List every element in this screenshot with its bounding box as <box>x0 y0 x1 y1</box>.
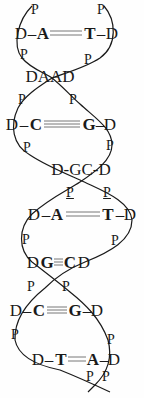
base-label: DAAD <box>25 68 74 85</box>
base-label: G <box>40 254 53 271</box>
base-label: C <box>64 254 76 271</box>
base-label: T <box>102 206 113 223</box>
deoxyribose-label: D <box>104 116 116 133</box>
phosphate-label: P <box>22 233 30 247</box>
base-label: A <box>37 25 49 42</box>
phosphate-label: P <box>107 333 115 347</box>
bond-dash: – <box>97 25 106 42</box>
bond-dash: – <box>23 302 32 319</box>
phosphate-label: P <box>97 3 105 17</box>
bond-dash: – <box>28 25 37 42</box>
bond-dash: – <box>42 206 51 223</box>
deoxyribose-label: D <box>6 116 18 133</box>
base-label: T <box>55 351 66 368</box>
phosphate-label: P <box>111 234 119 248</box>
base-label: D-GC-D <box>51 161 111 178</box>
strand-left <box>17 6 112 392</box>
base-label: G <box>68 302 81 319</box>
deoxyribose-label: D <box>32 351 44 368</box>
deoxyribose-label: D <box>108 351 120 368</box>
deoxyribose-label: D <box>91 302 103 319</box>
phosphate-label: P <box>106 139 114 153</box>
phosphate-label: P <box>84 53 92 67</box>
phosphate-label: P <box>69 93 77 107</box>
deoxyribose-label: D <box>78 254 90 271</box>
bond-dash: – <box>45 351 54 368</box>
base-label: G <box>82 116 95 133</box>
phosphate-label: P <box>11 328 19 342</box>
base-label: A <box>87 351 99 368</box>
phosphate-label: P <box>31 3 39 17</box>
phosphate-label: P <box>20 48 28 62</box>
deoxyribose-label: D <box>28 206 40 223</box>
deoxyribose-label: D <box>15 25 27 42</box>
phosphate-label: P <box>62 280 70 294</box>
phosphate-label: P <box>103 186 111 200</box>
deoxyribose-label: D <box>27 254 39 271</box>
deoxyribose-label: D <box>124 206 136 223</box>
phosphate-label: P <box>18 93 26 107</box>
base-label: C <box>33 302 45 319</box>
base-label: A <box>51 206 63 223</box>
deoxyribose-label: D <box>106 25 118 42</box>
phosphate-label: P <box>102 370 110 384</box>
base-label: C <box>30 116 42 133</box>
phosphate-label: P <box>86 370 94 384</box>
deoxyribose-label: D <box>10 302 22 319</box>
base-label: T <box>84 25 95 42</box>
phosphate-label: P <box>23 141 31 155</box>
dna-helix-diagram: PPD–AT–DPPDAADPPD–CG–DPPD-GC-DPPD–AT–DPP… <box>0 0 144 398</box>
phosphate-label: P <box>66 186 74 200</box>
bond-dash: – <box>20 116 29 133</box>
phosphate-label: P <box>27 280 35 294</box>
